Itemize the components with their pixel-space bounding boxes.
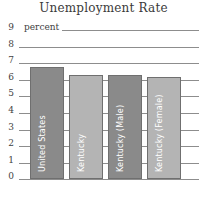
bar-label: Kentucky (Male) xyxy=(116,105,125,172)
bar-label: Kentucky xyxy=(77,134,86,172)
bar[interactable]: Kentucky (Male) xyxy=(108,75,142,180)
bar[interactable]: United States xyxy=(30,67,64,180)
unemployment-rate-chart: Unemployment Rate 9percent876543210 Unit… xyxy=(0,0,207,215)
bar[interactable]: Kentucky (Female) xyxy=(147,77,181,180)
chart-title: Unemployment Rate xyxy=(0,1,207,15)
bars-layer: United StatesKentuckyKentucky (Male)Kent… xyxy=(0,22,207,202)
bar[interactable]: Kentucky xyxy=(69,75,103,180)
bar-label: United States xyxy=(38,116,47,173)
x-axis-baseline xyxy=(19,179,199,180)
bar-label: Kentucky (Female) xyxy=(155,95,164,173)
